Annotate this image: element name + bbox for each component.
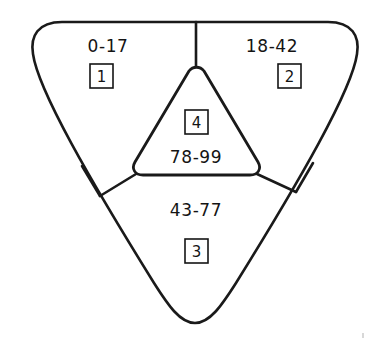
region-center-range: 78-99 (170, 147, 222, 167)
region-top-right-badge: 2 (278, 64, 301, 88)
diagram-root: 0-17 1 18-42 2 43-77 3 (0, 0, 389, 352)
partition-diagram: 0-17 1 18-42 2 43-77 3 (0, 0, 389, 352)
region-top-right-range: 18-42 (246, 36, 298, 56)
region-bottom-badge-label: 3 (192, 243, 202, 261)
region-bottom-range: 43-77 (170, 200, 222, 220)
region-top-left-badge: 1 (90, 64, 113, 88)
region-top-right-badge-label: 2 (285, 68, 295, 86)
region-top-left-range: 0-17 (88, 36, 129, 56)
region-top-left-badge-label: 1 (97, 68, 107, 86)
region-bottom-badge: 3 (185, 239, 208, 263)
scan-speck (362, 333, 364, 338)
region-center-badge-label: 4 (192, 114, 202, 132)
region-center-badge: 4 (185, 110, 208, 134)
